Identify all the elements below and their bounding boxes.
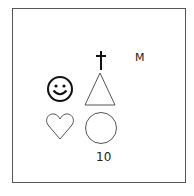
- circle-icon: [84, 111, 118, 145]
- heart-icon: [45, 112, 75, 141]
- dagger-icon: [92, 50, 110, 70]
- triangle-icon: [83, 72, 117, 107]
- number-label: 10: [96, 150, 111, 164]
- letter-label: M: [135, 51, 145, 64]
- smiley-icon: [46, 75, 74, 103]
